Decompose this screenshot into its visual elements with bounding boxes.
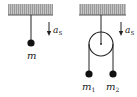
left-ceiling [8, 4, 53, 15]
mass-2 [109, 70, 116, 77]
left-acceleration-arrow-icon [47, 22, 51, 36]
left-mass [27, 39, 34, 46]
left-mass-label: m [27, 50, 36, 61]
right-acceleration-label: aS [125, 25, 134, 36]
left-setup: m aS [8, 4, 62, 61]
left-acceleration-label: aS [53, 25, 62, 36]
mass-2-label: m2 [106, 81, 119, 93]
mass-1 [85, 70, 92, 77]
right-ceiling [79, 4, 126, 15]
diagram-canvas: m aS m1 m2 aS [0, 0, 137, 97]
right-setup: m1 m2 aS [79, 4, 134, 93]
pulley-axle [100, 43, 102, 45]
right-acceleration-arrow-icon [119, 22, 123, 36]
mass-1-label: m1 [82, 81, 95, 93]
